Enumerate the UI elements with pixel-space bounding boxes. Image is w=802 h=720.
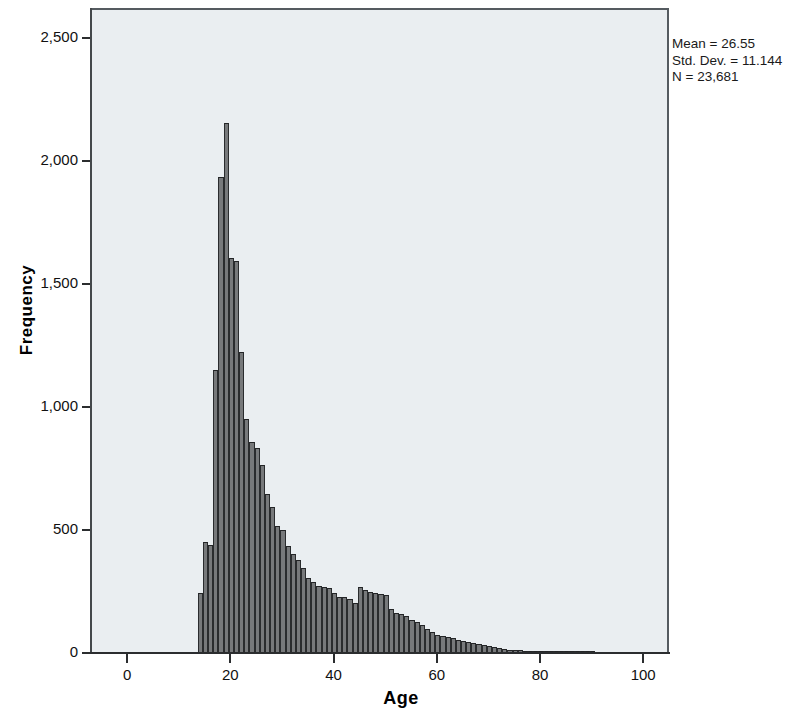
y-axis-ticks: 05001,0001,5002,0002,500	[0, 0, 92, 720]
x-axis-tick	[642, 654, 644, 663]
y-axis-title: Frequency	[17, 245, 37, 375]
statistics-annotation: Mean = 26.55 Std. Dev. = 11.144 N = 23,6…	[672, 36, 782, 86]
y-axis-tick	[82, 652, 90, 654]
x-axis-tick-label: 80	[510, 666, 570, 683]
x-axis-tick	[436, 654, 438, 663]
y-axis-tick-label: 2,000	[0, 151, 78, 168]
sample-size-text: N = 23,681	[672, 69, 782, 86]
histogram-bars	[92, 10, 667, 652]
x-axis-tick-label: 20	[200, 666, 260, 683]
x-axis-tick	[333, 654, 335, 663]
mean-text: Mean = 26.55	[672, 36, 782, 53]
y-axis-tick	[82, 529, 90, 531]
x-axis-line	[90, 652, 670, 654]
y-axis-tick	[82, 160, 90, 162]
y-axis-tick-label: 2,500	[0, 28, 78, 45]
x-axis-tick	[229, 654, 231, 663]
y-axis-tick-label: 500	[0, 520, 78, 537]
y-axis-tick	[82, 406, 90, 408]
x-axis-tick-label: 40	[304, 666, 364, 683]
x-axis-tick-label: 100	[613, 666, 673, 683]
x-axis-tick-label: 0	[97, 666, 157, 683]
y-axis-tick	[82, 283, 90, 285]
plot-area	[91, 8, 669, 653]
y-axis-tick-label: 1,500	[0, 274, 78, 291]
y-axis-tick-label: 0	[0, 643, 78, 660]
x-axis-tick	[539, 654, 541, 663]
y-axis-tick-label: 1,000	[0, 397, 78, 414]
std-dev-text: Std. Dev. = 11.144	[672, 53, 782, 70]
histogram-figure: 05001,0001,5002,0002,500 020406080100 Fr…	[0, 0, 802, 720]
x-axis-title: Age	[0, 688, 802, 709]
x-axis-tick	[126, 654, 128, 663]
y-axis-tick	[82, 37, 90, 39]
x-axis-tick-label: 60	[407, 666, 467, 683]
